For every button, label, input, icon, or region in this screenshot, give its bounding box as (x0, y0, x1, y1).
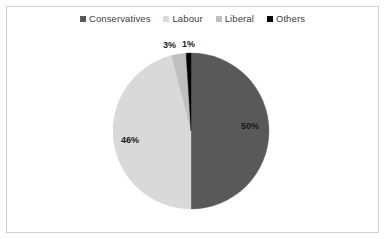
pie-slice-conservatives[interactable] (191, 53, 269, 209)
legend-label-liberal: Liberal (225, 14, 254, 24)
legend-label-conservatives: Conservatives (89, 14, 151, 24)
legend-label-labour: Labour (172, 14, 202, 24)
legend-item-labour[interactable]: Labour (163, 14, 202, 24)
pie-plot-area (0, 0, 385, 239)
pie-svg (0, 0, 385, 239)
data-label-liberal: 3% (163, 41, 176, 50)
legend-swatch-others-icon (267, 16, 273, 22)
pie-chart-figure: Conservatives Labour Liberal Others 50% … (0, 0, 385, 239)
data-label-others: 1% (182, 40, 195, 49)
legend-label-others: Others (276, 14, 305, 24)
data-label-labour: 46% (121, 136, 139, 145)
legend-item-others[interactable]: Others (267, 14, 305, 24)
chart-legend: Conservatives Labour Liberal Others (0, 14, 385, 24)
legend-item-conservatives[interactable]: Conservatives (80, 14, 151, 24)
legend-item-liberal[interactable]: Liberal (216, 14, 254, 24)
legend-swatch-labour-icon (163, 16, 169, 22)
data-label-conservatives: 50% (241, 122, 259, 131)
legend-swatch-conservatives-icon (80, 16, 86, 22)
pie-slice-group (113, 53, 269, 209)
legend-swatch-liberal-icon (216, 16, 222, 22)
